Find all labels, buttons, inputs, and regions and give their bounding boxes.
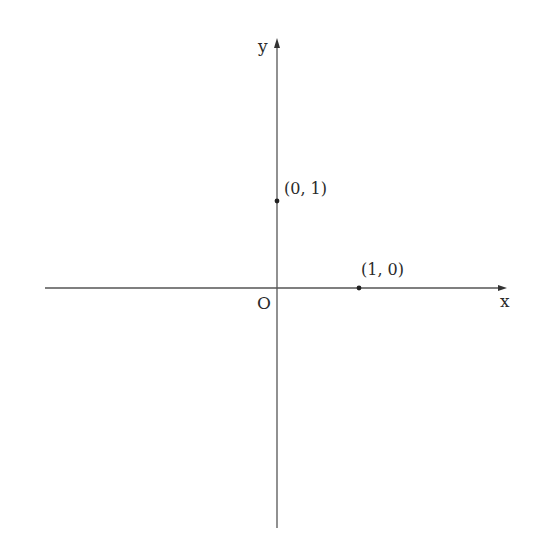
point-0-1 (275, 199, 280, 204)
origin-label: O (257, 295, 271, 312)
coordinate-plane (0, 0, 542, 556)
y-axis-arrow-icon (274, 38, 280, 48)
point-label-0-1: (0, 1) (284, 181, 327, 197)
y-axis-label: y (258, 38, 268, 55)
point-1-0 (357, 286, 362, 291)
x-axis-label: x (500, 293, 510, 310)
point-label-1-0: (1, 0) (361, 262, 404, 278)
